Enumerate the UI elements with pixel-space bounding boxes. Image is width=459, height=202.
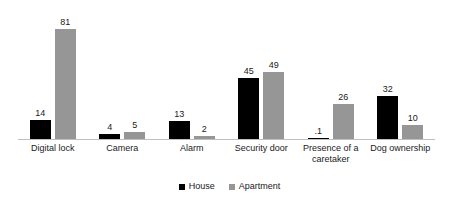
- legend-item-apartment[interactable]: Apartment: [229, 181, 281, 192]
- category-label: Camera: [88, 143, 158, 165]
- category-label: Dog ownership: [366, 143, 436, 165]
- bar-value-label: 32: [383, 84, 393, 95]
- bar-apartment: [402, 125, 423, 139]
- bar-group: 3210: [366, 8, 436, 139]
- bar-value-label: 45: [244, 66, 254, 77]
- bar-slot: 4: [99, 8, 120, 139]
- bar-apartment: [124, 132, 145, 139]
- bar-value-label: .1: [314, 126, 322, 137]
- category-label: Presence of a caretaker: [296, 143, 366, 165]
- bar-group: 132: [157, 8, 227, 139]
- bar-apartment: [333, 104, 354, 139]
- bar-chart: 1481451324549.1263210 Digital lockCamera…: [0, 0, 459, 202]
- bar-value-label: 26: [338, 92, 348, 103]
- chart-legend: HouseApartment: [0, 181, 459, 192]
- bar-slot: 2: [194, 8, 215, 139]
- bar-group: 45: [88, 8, 158, 139]
- bar-value-label: 4: [107, 122, 112, 133]
- legend-item-house[interactable]: House: [179, 181, 215, 192]
- x-axis-line: [18, 139, 435, 140]
- legend-swatch-icon: [179, 184, 185, 190]
- bar-group: 4549: [227, 8, 297, 139]
- bar-slot: 5: [124, 8, 145, 139]
- bar-house: [238, 78, 259, 139]
- bar-house: [169, 121, 190, 139]
- bar-value-label: 10: [408, 113, 418, 124]
- bar-slot: 14: [30, 8, 51, 139]
- bar-value-label: 2: [202, 124, 207, 135]
- bar-slot: 10: [402, 8, 423, 139]
- plot-area: 1481451324549.1263210: [18, 8, 435, 139]
- bar-house: [377, 96, 398, 139]
- legend-swatch-icon: [229, 184, 235, 190]
- category-label: Digital lock: [18, 143, 88, 165]
- bar-apartment: [55, 29, 76, 139]
- bar-value-label: 81: [60, 17, 70, 28]
- bar-slot: 32: [377, 8, 398, 139]
- bar-group: 1481: [18, 8, 88, 139]
- bar-slot: .1: [308, 8, 329, 139]
- bar-slot: 26: [333, 8, 354, 139]
- category-label: Security door: [227, 143, 297, 165]
- category-labels: Digital lockCameraAlarmSecurity doorPres…: [18, 143, 435, 165]
- category-label: Alarm: [157, 143, 227, 165]
- bar-groups: 1481451324549.1263210: [18, 8, 435, 139]
- bar-slot: 45: [238, 8, 259, 139]
- bar-group: .126: [296, 8, 366, 139]
- bar-value-label: 49: [269, 60, 279, 71]
- legend-label: Apartment: [239, 181, 281, 192]
- legend-label: House: [189, 181, 215, 192]
- bar-apartment: [263, 72, 284, 139]
- bar-value-label: 5: [132, 120, 137, 131]
- bar-value-label: 14: [35, 108, 45, 119]
- bar-slot: 49: [263, 8, 284, 139]
- bar-house: [30, 120, 51, 139]
- bar-slot: 81: [55, 8, 76, 139]
- bar-slot: 13: [169, 8, 190, 139]
- bar-value-label: 13: [174, 109, 184, 120]
